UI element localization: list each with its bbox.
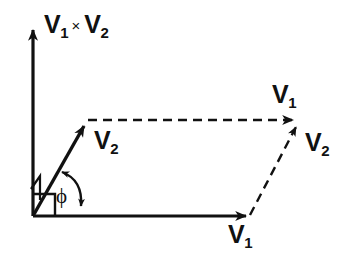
vector-diagram-figure: V1×V2 V2 V1 V2 V1 ϕ bbox=[0, 0, 340, 257]
label-v2-left-sub: 2 bbox=[110, 140, 118, 157]
label-v2-right-base: V bbox=[305, 128, 321, 156]
label-v2-left: V2 bbox=[94, 128, 119, 156]
label-cross-v2-base: V bbox=[84, 10, 100, 38]
label-v2-left-base: V bbox=[94, 126, 110, 154]
label-v1-top-sub: 1 bbox=[288, 94, 296, 111]
label-v2-right-sub: 2 bbox=[321, 142, 329, 159]
label-v2-right: V2 bbox=[305, 130, 330, 158]
label-v1-bottom-base: V bbox=[228, 220, 244, 248]
label-angle-phi: ϕ bbox=[56, 186, 67, 207]
label-v1-bottom-sub: 1 bbox=[244, 234, 252, 251]
label-cross-v1-sub: 1 bbox=[60, 24, 68, 41]
label-v1-top: V1 bbox=[272, 82, 297, 110]
label-v1-top-base: V bbox=[272, 80, 288, 108]
label-cross-v1-base: V bbox=[44, 10, 60, 38]
label-v1-bottom: V1 bbox=[228, 222, 253, 250]
label-cross-product: V1×V2 bbox=[44, 12, 109, 40]
label-cross-v2-sub: 2 bbox=[100, 24, 108, 41]
cross-product-operator-icon: × bbox=[72, 17, 81, 34]
vector-v2-right-dashed bbox=[250, 127, 296, 215]
